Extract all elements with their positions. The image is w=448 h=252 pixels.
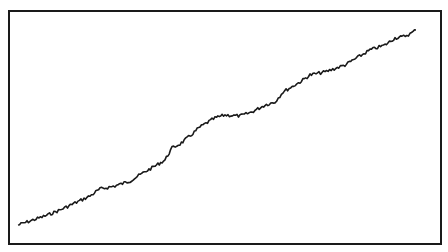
line-plot xyxy=(0,0,448,252)
data-line xyxy=(18,30,416,225)
